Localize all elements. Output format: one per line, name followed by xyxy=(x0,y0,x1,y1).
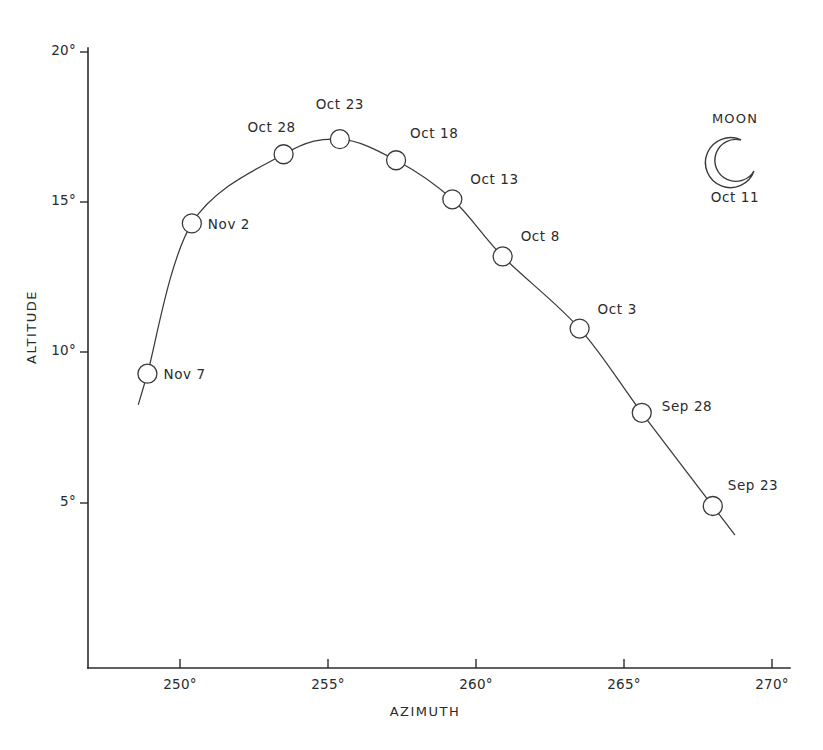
crescent-moon-icon xyxy=(705,138,754,188)
y-axis-title: ALTITUDE xyxy=(24,290,39,364)
data-point-marker[interactable] xyxy=(274,145,293,164)
data-point-label: Sep 23 xyxy=(728,477,779,493)
data-point-marker[interactable] xyxy=(138,364,157,383)
y-tick-label-15: 15° xyxy=(51,192,76,208)
data-point-label: Oct 28 xyxy=(247,119,295,135)
moon-path-curve xyxy=(138,139,734,535)
y-tick-label-10: 10° xyxy=(51,342,76,358)
data-point-label: Oct 3 xyxy=(598,301,637,317)
moon-legend-title: MOON xyxy=(712,111,758,126)
data-point-labels: Nov 7Nov 2Oct 28Oct 23Oct 18Oct 13Oct 8O… xyxy=(163,96,778,493)
data-point-label: Oct 18 xyxy=(410,125,458,141)
data-point-marker[interactable] xyxy=(493,247,512,266)
data-point-marker[interactable] xyxy=(632,403,651,422)
x-axis-ticks: 250° 255° 260° 265° 270° xyxy=(163,659,789,692)
x-tick-label-265: 265° xyxy=(607,676,641,692)
data-point-marker[interactable] xyxy=(182,214,201,233)
data-point-label: Oct 23 xyxy=(316,96,364,112)
data-point-label: Sep 28 xyxy=(662,398,713,414)
x-axis-title: AZIMUTH xyxy=(390,704,461,719)
x-tick-label-270: 270° xyxy=(755,676,789,692)
data-point-label: Oct 13 xyxy=(470,171,518,187)
y-tick-label-20: 20° xyxy=(51,42,76,58)
x-tick-label-255: 255° xyxy=(311,676,345,692)
data-point-marker[interactable] xyxy=(703,497,722,516)
data-point-label: Nov 2 xyxy=(208,216,250,232)
data-point-label: Oct 8 xyxy=(521,228,560,244)
data-point-label: Nov 7 xyxy=(163,366,205,382)
data-point-marker[interactable] xyxy=(443,190,462,209)
y-tick-label-5: 5° xyxy=(60,493,76,509)
data-point-marker[interactable] xyxy=(330,130,349,149)
y-axis-ticks: 20° 15° 10° 5° xyxy=(51,42,88,509)
moon-altitude-azimuth-chart: 20° 15° 10° 5° 250° 255° 260° 265° 270° … xyxy=(0,0,823,750)
moon-legend: MOON Oct 11 xyxy=(705,111,759,205)
data-point-marker[interactable] xyxy=(570,319,589,338)
x-tick-label-250: 250° xyxy=(163,676,197,692)
chart-canvas: 20° 15° 10° 5° 250° 255° 260° 265° 270° … xyxy=(0,0,823,750)
data-point-marker[interactable] xyxy=(387,151,406,170)
moon-legend-date: Oct 11 xyxy=(711,189,759,205)
x-tick-label-260: 260° xyxy=(459,676,493,692)
